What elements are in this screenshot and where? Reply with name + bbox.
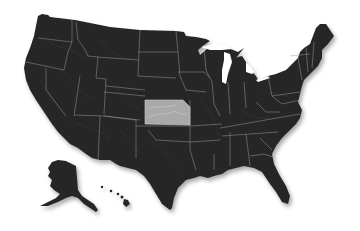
hawaii-island-big bbox=[123, 199, 130, 207]
alaska bbox=[40, 160, 98, 212]
hawaii-island-maui bbox=[121, 196, 124, 199]
lake-superior bbox=[202, 44, 232, 50]
us-map-svg bbox=[0, 0, 360, 231]
us-map bbox=[0, 0, 360, 231]
hawaii-island-kauai bbox=[101, 186, 103, 188]
hawaii-island-molokai bbox=[117, 193, 120, 196]
kansas-highlight bbox=[145, 100, 190, 125]
alaska-inset bbox=[40, 160, 98, 212]
hawaii-inset bbox=[101, 186, 130, 207]
hawaii-island-oahu bbox=[110, 190, 113, 193]
